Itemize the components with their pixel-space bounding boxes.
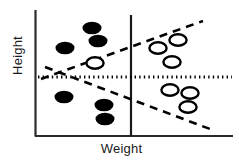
y-axis-label: Height: [10, 28, 25, 84]
x-axis-label: Weight: [35, 141, 208, 156]
data-point-open: [181, 87, 198, 99]
data-point-filled: [96, 113, 115, 126]
data-point-open: [163, 56, 180, 68]
data-point-open: [86, 57, 103, 69]
data-point-filled: [89, 35, 108, 48]
data-point-filled: [83, 22, 102, 35]
data-point-filled: [56, 42, 75, 55]
data-point-open: [149, 42, 166, 54]
scatter-chart: Height Weight: [0, 0, 239, 163]
data-point-filled: [55, 91, 74, 104]
data-point-open: [169, 34, 186, 46]
plot-area: [0, 0, 239, 163]
data-point-filled: [95, 99, 114, 112]
data-point-open: [161, 84, 178, 96]
data-point-open: [179, 101, 196, 113]
